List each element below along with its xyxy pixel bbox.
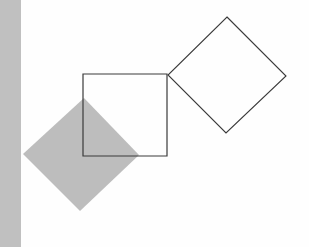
shapes-layer: [0, 0, 309, 247]
outlined-diamond: [168, 17, 286, 133]
filled-gray-diamond: [23, 98, 139, 211]
diagram-canvas: [0, 0, 309, 247]
